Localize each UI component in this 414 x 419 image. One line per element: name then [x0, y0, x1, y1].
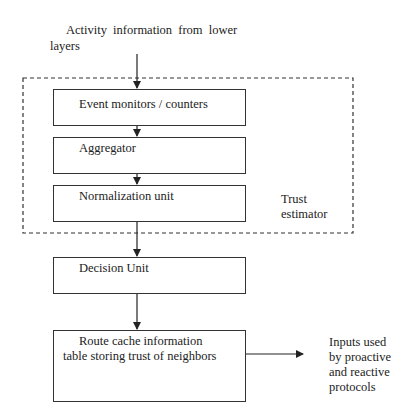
trust-estimator-label-line2: estimator	[281, 207, 328, 222]
decision-unit-box: Decision Unit	[53, 257, 246, 294]
aggregator-box: Aggregator	[53, 137, 246, 174]
normalization-box: Normalization unit	[53, 185, 246, 222]
aggregator-label: Aggregator	[79, 141, 136, 156]
normalization-label: Normalization unit	[79, 189, 174, 204]
output-label-line4: protocols	[329, 380, 376, 395]
output-label-line2: by proactive	[329, 350, 391, 365]
output-label-line1: Inputs used	[329, 335, 386, 350]
output-label-line3: and reactive	[329, 365, 390, 380]
route-cache-label-line1: Route cache information	[79, 334, 203, 349]
input-label-line1: Activity information from lower	[66, 23, 237, 38]
route-cache-box: Route cache information table storing tr…	[53, 330, 246, 402]
input-label-line2: layers	[50, 39, 80, 54]
trust-estimator-label-line1: Trust	[281, 192, 307, 207]
event-monitors-box: Event monitors / counters	[53, 89, 246, 126]
event-monitors-label: Event monitors / counters	[79, 97, 208, 112]
route-cache-label-line2: table storing trust of neighbors	[63, 349, 216, 364]
decision-unit-label: Decision Unit	[79, 261, 149, 276]
